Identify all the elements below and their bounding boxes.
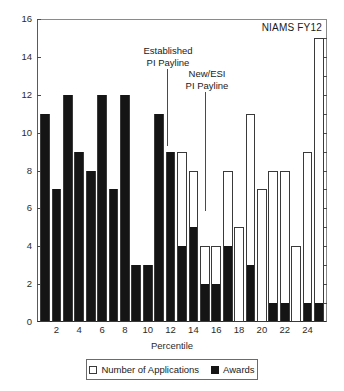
bar-awards xyxy=(201,284,209,321)
legend-entry-awards: Awards xyxy=(211,365,255,375)
bar-awards xyxy=(315,303,323,321)
x-tick-label: 16 xyxy=(206,325,226,335)
bar-applications xyxy=(314,38,324,322)
bar-awards xyxy=(98,95,106,321)
established-pi-payline-label: Established PI Payline xyxy=(126,45,210,68)
bar-applications xyxy=(280,171,290,323)
bar-applications xyxy=(291,246,301,322)
x-axis-title: Percentile xyxy=(0,340,344,351)
filled-square-swatch-icon xyxy=(211,366,219,374)
y-tick-label: 0 xyxy=(10,317,32,327)
bar-awards xyxy=(247,265,255,321)
bar-awards xyxy=(144,265,152,321)
bar-applications xyxy=(257,189,267,322)
y-tick-label: 8 xyxy=(10,166,32,176)
chart-legend: Number of Applications Awards xyxy=(86,359,258,380)
bar-applications xyxy=(234,227,244,322)
bar-awards xyxy=(178,246,186,321)
x-tick-label: 24 xyxy=(298,325,318,335)
y-tick-mark-right-minor xyxy=(324,265,327,266)
y-tick-label: 6 xyxy=(10,203,32,213)
x-tick-label: 10 xyxy=(138,325,158,335)
bar-applications xyxy=(303,152,313,322)
x-tick-label: 22 xyxy=(275,325,295,335)
x-tick-label: 18 xyxy=(229,325,249,335)
x-tick-label: 4 xyxy=(69,325,89,335)
bar-awards xyxy=(121,95,129,321)
x-tick-label: 12 xyxy=(161,325,181,335)
y-tick-mark-right-minor xyxy=(324,303,327,304)
bar-awards xyxy=(269,303,277,321)
bar-awards xyxy=(212,284,220,321)
open-square-swatch-icon xyxy=(89,366,97,374)
y-tick-mark xyxy=(37,95,41,96)
new-esi-pi-payline-line xyxy=(205,92,206,211)
bar-awards xyxy=(224,246,232,321)
y-tick-mark-right-minor xyxy=(324,114,327,115)
bar-awards xyxy=(304,303,312,321)
bar-awards xyxy=(190,227,198,321)
y-tick-label: 16 xyxy=(10,14,32,24)
x-tick-label: 14 xyxy=(183,325,203,335)
y-tick-mark-right-minor xyxy=(324,189,327,190)
bar-awards xyxy=(110,189,118,321)
y-tick-mark xyxy=(37,19,41,20)
x-tick-label: 20 xyxy=(252,325,272,335)
series-tag-label: NIAMS FY12 xyxy=(262,22,322,33)
x-tick-label: 6 xyxy=(92,325,112,335)
bar-awards xyxy=(167,152,175,321)
bar-awards xyxy=(53,189,61,321)
bar-awards xyxy=(64,95,72,321)
y-tick-mark-right-minor xyxy=(324,76,327,77)
new-esi-pi-payline-label: New/ESI PI Payline xyxy=(168,68,246,91)
y-tick-label: 12 xyxy=(10,90,32,100)
x-tick-label: 8 xyxy=(115,325,135,335)
y-tick-mark-right-minor xyxy=(324,227,327,228)
bar-awards xyxy=(155,114,163,321)
y-tick-mark-right-minor xyxy=(324,152,327,153)
y-tick-label: 2 xyxy=(10,279,32,289)
y-tick-label: 4 xyxy=(10,241,32,251)
bar-applications xyxy=(268,171,278,323)
bar-awards xyxy=(281,303,289,321)
bar-awards xyxy=(75,152,83,321)
bar-awards xyxy=(87,171,95,322)
chart-figure: 0246810121416 24681012141618202224 Perce… xyxy=(0,0,344,391)
y-tick-label: 14 xyxy=(10,52,32,62)
legend-entry-applications: Number of Applications xyxy=(89,365,199,375)
bar-awards xyxy=(41,114,49,321)
y-tick-mark-right-minor xyxy=(324,38,327,39)
y-tick-mark xyxy=(37,57,41,58)
y-tick-label: 10 xyxy=(10,128,32,138)
legend-label-applications: Number of Applications xyxy=(101,365,199,375)
x-tick-label: 2 xyxy=(46,325,66,335)
bar-awards xyxy=(132,265,140,321)
legend-label-awards: Awards xyxy=(223,365,255,375)
